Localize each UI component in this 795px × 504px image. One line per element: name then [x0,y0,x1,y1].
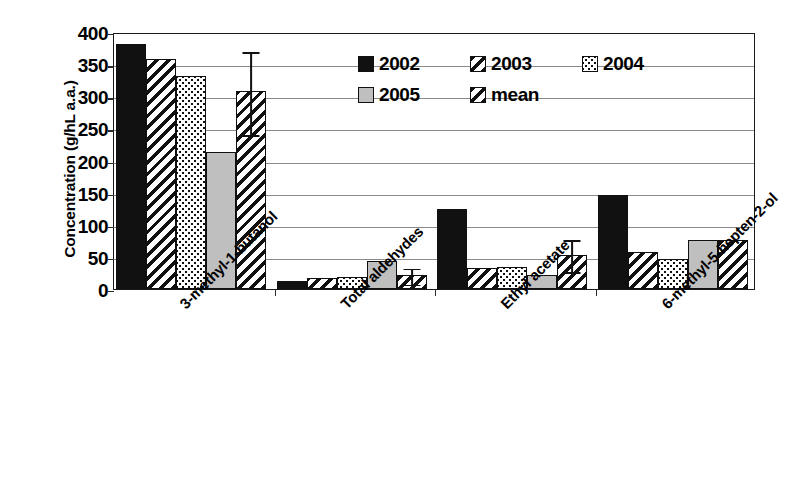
y-tick-label: 150 [30,184,108,203]
y-tick-mark [108,98,114,99]
bar-2003-Total aldehydes [307,278,337,289]
legend-swatch-icon [358,56,374,72]
y-tick-mark [108,163,114,164]
y-tick-label: 50 [30,248,108,267]
legend-label: mean [491,85,539,104]
bar-2002-Total aldehydes [277,281,307,289]
y-tick-mark [108,195,114,196]
bar-2002-Ethyl acetate [437,209,467,289]
y-tick-label: 100 [30,216,108,235]
legend-item-2002[interactable]: 2002 [358,54,470,73]
y-tick-mark [108,66,114,67]
bar-2002-3-methyl-1-butanol [116,44,146,289]
bar-2002-6-methyl-5-hepten-2-ol [598,195,628,289]
legend-row: 2005mean [358,79,658,110]
x-tick-mark [275,289,276,296]
bar-2003-Ethyl acetate [467,268,497,289]
legend-label: 2003 [491,54,532,73]
error-bar-cap-upper [403,269,420,271]
bar-chart-figure: Concentration (g/hL a.a.) 40035030025020… [0,0,795,504]
legend-swatch-icon [358,87,374,103]
chart-legend: 2002200320042005mean [358,48,658,110]
error-bar-cap-upper [243,52,260,54]
bar-2004-3-methyl-1-butanol [176,76,206,289]
bar-2003-3-methyl-1-butanol [146,59,176,289]
legend-label: 2002 [379,54,420,73]
legend-label: 2005 [379,85,420,104]
legend-row: 200220032004 [358,48,658,79]
y-tick-mark [108,34,114,35]
legend-label: 2004 [603,54,644,73]
y-tick-label: 250 [30,120,108,139]
y-tick-mark [108,259,114,260]
error-bar-cap-lower [243,135,260,137]
error-bar-whisker [250,52,252,135]
legend-item-2005[interactable]: 2005 [358,85,470,104]
error-bar-whisker [411,269,413,285]
x-tick-mark [596,289,597,296]
error-bar-cap-lower [564,272,581,274]
x-tick-mark [435,289,436,296]
bar-2003-6-methyl-5-hepten-2-ol [628,252,658,289]
y-tick-label: 0 [30,281,108,300]
y-axis-tick-labels: 400350300250200150100500 [30,33,108,290]
error-bar-cap-lower [403,285,420,287]
y-tick-mark [108,291,114,292]
error-bar-whisker [571,240,573,271]
y-tick-label: 300 [30,88,108,107]
legend-swatch-icon [470,56,486,72]
legend-item-2003[interactable]: 2003 [470,54,582,73]
y-tick-label: 200 [30,152,108,171]
y-tick-mark [108,227,114,228]
y-tick-label: 400 [30,24,108,43]
legend-swatch-icon [582,56,598,72]
legend-swatch-icon [470,87,486,103]
legend-item-2004[interactable]: 2004 [582,54,694,73]
y-tick-mark [108,130,114,131]
legend-item-mean[interactable]: mean [470,85,582,104]
y-tick-label: 350 [30,56,108,75]
